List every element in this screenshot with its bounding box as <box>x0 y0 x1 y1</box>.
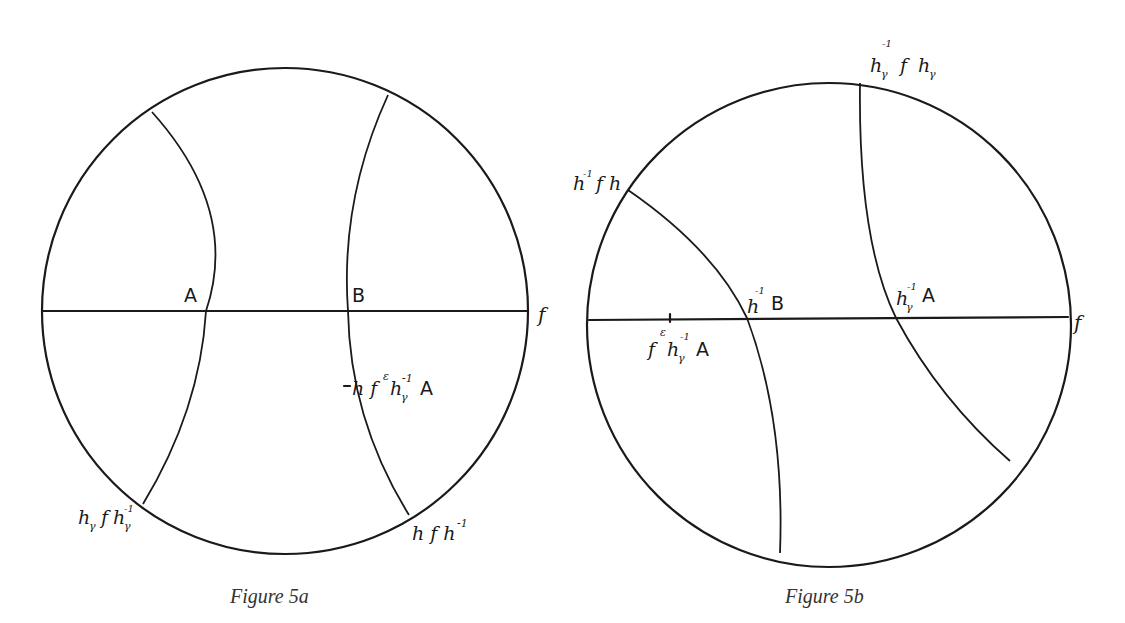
svg-text:-1: -1 <box>124 503 134 514</box>
svg-text:B: B <box>771 292 784 314</box>
bottom-left-endpoint-label: h γ f h γ -1 <box>78 503 134 533</box>
geodesic-through-h-gamma-inv-A <box>860 83 1010 461</box>
endpoint-f-label: f <box>536 303 549 327</box>
figure-5a: A B f h f ε h γ -1 A h γ f h γ -1 h f h … <box>42 68 549 608</box>
figure-caption-5a: Figure 5a <box>229 585 309 608</box>
svg-text:γ: γ <box>906 301 913 314</box>
h-inv-B-label: h -1 B <box>747 285 784 317</box>
h-gamma-inv-A-label: h γ -1 A <box>896 281 935 314</box>
svg-text:A: A <box>420 377 433 399</box>
svg-text:A: A <box>922 284 935 306</box>
svg-text:γ: γ <box>89 520 96 533</box>
bottom-right-endpoint-label: h f h -1 <box>412 517 468 544</box>
svg-text:-1: -1 <box>882 38 892 49</box>
svg-text:f h: f h <box>594 172 621 194</box>
svg-text:γ: γ <box>881 68 888 81</box>
svg-text:ε: ε <box>383 370 389 383</box>
geodesic-through-A <box>143 112 215 504</box>
svg-text:-1: -1 <box>457 517 468 530</box>
geodesic-through-h-inv-B <box>628 190 781 553</box>
svg-text:γ: γ <box>678 352 685 365</box>
svg-text:γ: γ <box>124 520 131 533</box>
svg-text:h: h <box>747 295 759 317</box>
svg-text:γ: γ <box>401 391 408 404</box>
svg-text:h f h: h f h <box>412 522 456 544</box>
diameter-line <box>589 317 1068 320</box>
figure-5b: h -1 f h h γ -1 f h γ h -1 B h γ -1 A f … <box>573 38 1085 608</box>
svg-text:h f: h f <box>352 377 380 399</box>
svg-text:-1: -1 <box>583 168 593 179</box>
figure-caption-5b: Figure 5b <box>784 585 864 608</box>
top-left-endpoint-label: h -1 f h <box>573 168 621 194</box>
svg-text:-1: -1 <box>755 285 765 296</box>
svg-text:ε: ε <box>660 326 666 339</box>
boundary-circle <box>587 83 1071 567</box>
mark-label: h f ε h γ -1 A <box>352 370 433 404</box>
point-B-label: B <box>352 284 365 306</box>
svg-text:f: f <box>99 506 111 528</box>
mark-label: f ε h γ -1 A <box>646 326 709 365</box>
figure-canvas: A B f h f ε h γ -1 A h γ f h γ -1 h f h … <box>0 0 1125 623</box>
top-endpoint-label: h γ -1 f h γ <box>870 38 936 81</box>
svg-text:γ: γ <box>929 68 936 81</box>
svg-text:-1: -1 <box>680 331 690 342</box>
svg-text:f: f <box>646 338 658 360</box>
svg-text:f: f <box>898 54 910 76</box>
endpoint-f-label: f <box>1072 311 1085 335</box>
svg-text:-1: -1 <box>402 372 413 385</box>
svg-text:-1: -1 <box>907 281 917 292</box>
point-A-label: A <box>184 284 197 306</box>
svg-text:A: A <box>696 338 709 360</box>
